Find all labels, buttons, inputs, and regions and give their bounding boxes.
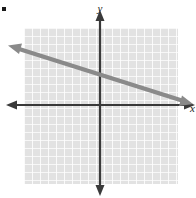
coordinate-plane-figure: y x <box>0 0 196 198</box>
x-axis-left-arrow-icon <box>6 101 17 110</box>
graph-canvas: y x <box>0 0 196 198</box>
x-axis-label: x <box>189 102 195 114</box>
plotted-line-start-arrow-icon <box>8 44 22 55</box>
bullet-marker-icon <box>2 7 6 11</box>
y-axis-label: y <box>97 2 103 14</box>
y-axis-down-arrow-icon <box>96 185 105 196</box>
